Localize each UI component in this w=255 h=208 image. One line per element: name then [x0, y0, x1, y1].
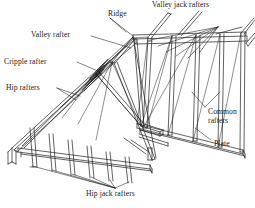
leader-common-rafters: [192, 92, 220, 107]
leader-hip-jack-rafters: [32, 166, 129, 188]
label-hip-jack-rafters: Hip jack rafters: [86, 190, 135, 199]
leader-cripple-rafter: [77, 62, 100, 72]
label-valley-rafter: Valley rafter: [31, 31, 70, 40]
main-ridge-left: [112, 37, 136, 63]
centre-valley-detail: [124, 124, 168, 160]
roof-framing-diagram: Ridge Valley jack rafters Valley rafter …: [0, 0, 255, 208]
label-ridge: Ridge: [108, 10, 127, 19]
ridge-beam: [133, 32, 247, 44]
label-plate: Plate: [214, 140, 230, 149]
label-common-rafters: Common rafters: [208, 108, 237, 125]
leader-hip-rafters: [57, 88, 80, 100]
label-hip-rafters: Hip rafters: [6, 84, 40, 93]
label-cripple-rafter: Cripple rafter: [4, 58, 47, 67]
leader-ridge: [110, 18, 133, 36]
common-rafters-group: [143, 33, 245, 152]
left-plate: [18, 148, 152, 173]
label-valley-jack-rafters: Valley jack rafters: [152, 1, 209, 10]
back-slope-rafters: [149, 11, 255, 46]
leader-valley-rafter: [91, 36, 131, 48]
hip-rafters-group: [12, 37, 156, 160]
